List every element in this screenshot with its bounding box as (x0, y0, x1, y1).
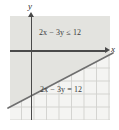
y-axis-arrow-icon (28, 12, 34, 17)
x-axis (10, 50, 107, 52)
inequality-annotation: 2x − 3y ≤ 12 (39, 29, 81, 37)
y-axis (31, 17, 33, 120)
inequality-graph-figure: y x 2x − 3y ≤ 12 2x − 3y = 12 (0, 0, 119, 130)
x-axis-label: x (111, 45, 115, 54)
equation-annotation: 2x − 3y = 12 (40, 86, 82, 94)
boundary-line (0, 0, 119, 130)
y-axis-label: y (28, 2, 32, 11)
x-axis-arrow-icon (105, 47, 110, 53)
